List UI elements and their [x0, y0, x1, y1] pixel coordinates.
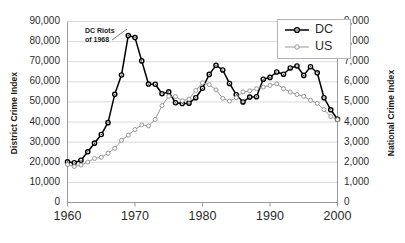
data-point-core-dc [155, 84, 156, 85]
dc-riots-annotation-line2: of 1968 [85, 35, 115, 44]
data-point-core-dc [107, 122, 108, 123]
data-point-us [268, 83, 272, 87]
data-point-core-dc [168, 91, 169, 92]
data-point-us [322, 108, 326, 112]
data-point-us [99, 155, 103, 159]
data-point-us [255, 87, 259, 91]
data-point-core-dc [114, 94, 115, 95]
legend-label-us: US [315, 39, 332, 53]
data-point-us [248, 89, 252, 93]
data-point-us [86, 160, 90, 164]
legend-label-dc: DC [315, 22, 333, 36]
data-point-core-dc [215, 65, 216, 66]
data-point-core-dc [188, 103, 189, 104]
left-tick-label: 90,000 [14, 15, 60, 26]
data-point-core-dc [330, 109, 331, 110]
data-point-us [133, 128, 137, 132]
right-tick-label: 5,000 [344, 95, 390, 106]
data-point-us [106, 151, 110, 155]
data-point-us [282, 87, 286, 91]
data-point-us [140, 123, 144, 127]
data-point-core-dc [283, 74, 284, 75]
data-point-us [147, 124, 151, 128]
data-point-core-dc [236, 94, 237, 95]
left-tick-label: 10,000 [14, 176, 60, 187]
data-point-us [234, 96, 238, 100]
right-tick-label: 4,000 [344, 116, 390, 127]
right-tick-label: 6,000 [344, 75, 390, 86]
right-tick-label: 1,000 [344, 176, 390, 187]
data-point-us [66, 162, 70, 166]
dc-riots-annotation: DC Riots of 1968 [85, 26, 115, 44]
data-point-core-dc [303, 75, 304, 76]
data-point-core-dc [323, 97, 324, 98]
data-point-core-dc [222, 69, 223, 70]
left-tick-label: 60,000 [14, 75, 60, 86]
left-tick-label: 30,000 [14, 136, 60, 147]
data-point-us [288, 90, 292, 94]
data-point-us [214, 88, 218, 92]
data-point-us [93, 156, 97, 160]
right-tick-label: 0 [344, 196, 390, 207]
data-point-core-dc [263, 79, 264, 80]
data-point-us [113, 146, 117, 150]
data-point-core-dc [249, 97, 250, 98]
data-point-us [221, 96, 225, 100]
data-point-us [160, 104, 164, 108]
data-point-us [207, 83, 211, 87]
x-tick-marks [68, 203, 338, 207]
data-point-us [315, 101, 319, 105]
data-point-us [187, 97, 191, 101]
data-point-us [275, 82, 279, 86]
data-point-us [79, 163, 83, 167]
data-point-core-dc [276, 71, 277, 72]
data-point-core-dc [290, 67, 291, 68]
data-point-us [261, 85, 265, 89]
data-point-core-dc [87, 151, 88, 152]
left-tick-label: 40,000 [14, 116, 60, 127]
data-point-us [180, 99, 184, 103]
data-point-us [174, 95, 178, 99]
data-point-core-dc [134, 37, 135, 38]
x-tick-label: 2000 [314, 209, 362, 223]
data-point-us [329, 115, 333, 119]
data-point-us [167, 94, 171, 98]
data-point-core-dc [128, 35, 129, 36]
left-tick-label: 80,000 [14, 35, 60, 46]
data-point-core-dc [80, 160, 81, 161]
data-point-core-dc [229, 83, 230, 84]
right-tick-label: 3,000 [344, 136, 390, 147]
data-point-us [302, 94, 306, 98]
data-point-core-dc [148, 84, 149, 85]
data-point-us [295, 93, 299, 97]
data-point-us [201, 81, 205, 85]
x-tick-label: 1960 [44, 209, 92, 223]
data-point-us [126, 133, 130, 137]
data-point-core-dc [94, 143, 95, 144]
data-point-core-dc [175, 102, 176, 103]
left-tick-label: 20,000 [14, 156, 60, 167]
x-tick-label: 1990 [246, 209, 294, 223]
x-tick-label: 1980 [179, 209, 227, 223]
data-point-core-dc [242, 101, 243, 102]
x-tick-label: 1970 [111, 209, 159, 223]
left-tick-label: 50,000 [14, 95, 60, 106]
data-point-core-dc [256, 96, 257, 97]
data-point-us [336, 118, 340, 122]
data-point-core-dc [296, 65, 297, 66]
data-point-core-dc [209, 74, 210, 75]
data-point-core-dc [161, 93, 162, 94]
legend [277, 19, 351, 59]
data-point-core-dc [121, 74, 122, 75]
data-point-core-dc [269, 77, 270, 78]
data-point-us [72, 165, 76, 169]
left-tick-label: 70,000 [14, 55, 60, 66]
data-point-core-dc [317, 72, 318, 73]
data-point-core-dc [195, 97, 196, 98]
data-point-core-dc [74, 162, 75, 163]
crime-index-line-chart: District Crime Index National Crime Inde… [0, 0, 405, 243]
left-tick-label: 0 [14, 196, 60, 207]
data-point-us [241, 90, 245, 94]
data-point-core-dc [141, 60, 142, 61]
data-point-us [309, 98, 313, 102]
